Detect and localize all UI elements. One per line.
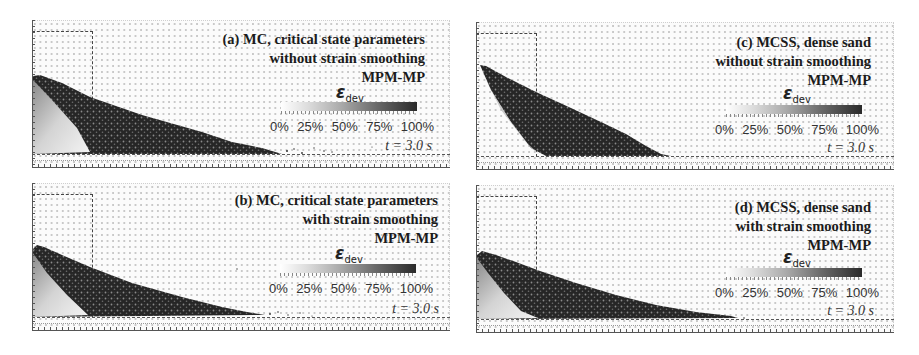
title-line: (c) MCSS, dense sand <box>716 33 872 52</box>
colorbar <box>281 102 417 111</box>
colorbar-tick-labels: 0% 25% 50% 75% 100% <box>715 122 879 137</box>
colorbar-label: εdev <box>336 82 364 104</box>
y-axis <box>32 183 35 331</box>
x-axis <box>476 166 894 170</box>
title-line: without strain smoothing <box>222 49 425 68</box>
panel-a-title: (a) MC, critical state parameters withou… <box>222 30 425 87</box>
time-label: t = 3.0 s <box>385 138 432 154</box>
x-axis <box>476 329 894 333</box>
title-line: MPM-MP <box>222 68 425 87</box>
title-line: (b) MC, critical state parameters <box>235 191 438 210</box>
colorbar-label: εdev <box>335 243 363 265</box>
y-axis <box>32 20 35 168</box>
colorbar-label: εdev <box>783 83 811 105</box>
colorbar-ticks <box>280 273 416 276</box>
time-label: t = 3.0 s <box>827 303 874 319</box>
colorbar-tick-labels: 0% 25% 50% 75% 100% <box>715 285 879 300</box>
colorbar-ticks <box>281 111 417 114</box>
title-line: (d) MCSS, dense sand <box>735 198 871 217</box>
title-line: with strain smoothing <box>235 210 438 229</box>
time-label: t = 3.0 s <box>392 301 439 317</box>
colorbar <box>726 268 862 277</box>
colorbar-ticks <box>726 114 862 117</box>
colorbar-tick-labels: 0% 25% 50% 75% 100% <box>270 119 434 134</box>
colorbar <box>280 264 416 273</box>
y-axis <box>476 22 479 170</box>
colorbar-tick-labels: 0% 25% 50% 75% 100% <box>269 281 433 296</box>
y-axis <box>476 185 479 333</box>
colorbar <box>726 105 862 114</box>
colorbar-label: εdev <box>783 247 811 269</box>
time-label: t = 3.0 s <box>827 140 874 156</box>
panel-c-title: (c) MCSS, dense sand without strain smoo… <box>716 33 872 90</box>
panel-b-title: (b) MC, critical state parameters with s… <box>235 191 438 248</box>
title-line: (a) MC, critical state parameters <box>222 30 425 49</box>
colorbar-ticks <box>726 277 862 280</box>
x-axis <box>32 164 450 168</box>
x-axis <box>32 327 450 331</box>
title-line: without strain smoothing <box>716 52 872 71</box>
title-line: with strain smoothing <box>735 217 871 236</box>
